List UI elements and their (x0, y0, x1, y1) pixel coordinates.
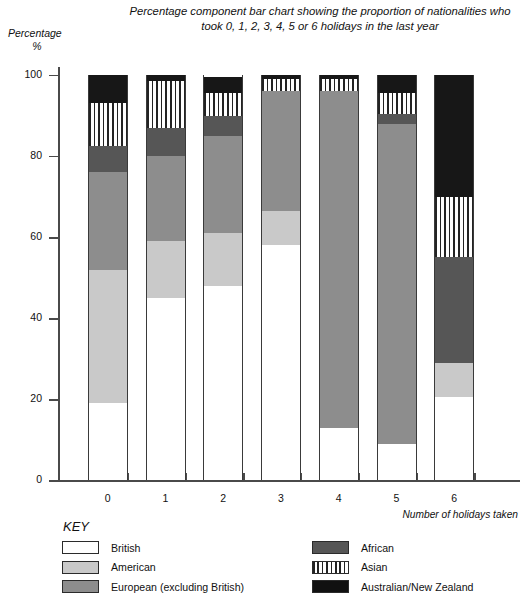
legend-label: Asian (361, 561, 388, 573)
bar-segment (320, 75, 358, 79)
key-heading: KEY (63, 519, 89, 534)
legend-item[interactable]: Australian/New Zealand (312, 577, 528, 597)
bar-0[interactable] (88, 75, 128, 480)
y-axis-tick (49, 75, 58, 76)
y-axis-tick-label: 60 (2, 230, 42, 242)
bar-1[interactable] (146, 75, 186, 480)
legend-label: Australian/New Zealand (361, 581, 473, 593)
bar-segment (320, 79, 358, 91)
bar-segment (89, 75, 127, 103)
y-axis-title: Percentage % (8, 27, 66, 53)
legend-item[interactable]: American (62, 558, 292, 578)
bar-segment (262, 79, 300, 91)
x-axis-tick (243, 473, 244, 482)
legend-label: European (excluding British) (111, 581, 244, 593)
y-axis-tick (49, 480, 58, 481)
legend-swatch (62, 541, 99, 554)
x-axis-tick (474, 473, 475, 482)
bar-segment (435, 257, 473, 362)
bar-segment (378, 124, 416, 444)
bar-segment (262, 211, 300, 245)
x-axis-title: Number of holidays taken (402, 509, 518, 520)
legend: BritishAmericanEuropean (excluding Briti… (62, 538, 522, 596)
bar-segment (89, 103, 127, 146)
y-axis-tick-label: 80 (2, 149, 42, 161)
x-axis-tick-label: 3 (261, 492, 301, 504)
bar-segment (262, 91, 300, 211)
x-axis-tick (301, 473, 302, 482)
bar-segment (262, 75, 300, 79)
bar-segment (378, 444, 416, 480)
bar-segment (89, 270, 127, 404)
bar-segment (147, 128, 185, 156)
bar-4[interactable] (319, 75, 359, 480)
legend-swatch (62, 561, 99, 574)
bar-segment (147, 156, 185, 241)
x-axis-tick (186, 473, 187, 482)
bar-segment (147, 81, 185, 128)
bar-segment (378, 75, 416, 93)
legend-item[interactable]: British (62, 538, 292, 558)
bar-segment (378, 93, 416, 113)
bar-segment (435, 75, 473, 197)
y-axis-tick-label: 0 (2, 473, 42, 485)
y-axis-tick (49, 399, 58, 400)
y-axis-tick (49, 237, 58, 238)
x-axis-tick (417, 473, 418, 482)
bar-segment (204, 286, 242, 481)
bar-6[interactable] (434, 75, 474, 480)
y-axis-title-line1: Percentage (8, 27, 62, 39)
x-axis-tick (128, 473, 129, 482)
y-axis-title-line2: % (8, 40, 66, 53)
x-axis-tick-label: 6 (434, 492, 474, 504)
bar-segment (435, 397, 473, 480)
bar-segment (204, 136, 242, 233)
legend-label: British (111, 542, 140, 554)
bar-segment (435, 197, 473, 258)
bar-segment (262, 245, 300, 480)
y-axis-tick (49, 156, 58, 157)
legend-swatch (312, 561, 349, 574)
bar-segment (147, 75, 185, 81)
bar-segment (89, 172, 127, 269)
bar-segment (147, 241, 185, 298)
x-axis-tick-label: 0 (88, 492, 128, 504)
legend-label: American (111, 561, 156, 573)
legend-label: African (361, 542, 394, 554)
bar-segment (204, 77, 242, 93)
bar-segment (89, 403, 127, 480)
plot-area: Number of holidays taken 020406080100012… (58, 75, 520, 482)
bar-segment (89, 146, 127, 172)
y-axis-tick-label: 40 (2, 311, 42, 323)
bar-segment (378, 114, 416, 124)
legend-item[interactable]: Asian (312, 558, 528, 578)
bar-segment (204, 116, 242, 136)
legend-column-left: BritishAmericanEuropean (excluding Briti… (62, 538, 292, 597)
legend-swatch (62, 580, 99, 593)
chart-title: Percentage component bar chart showing t… (120, 4, 520, 34)
x-axis-tick-label: 4 (319, 492, 359, 504)
bar-segment (320, 91, 358, 427)
legend-item[interactable]: African (312, 538, 528, 558)
y-axis-line (58, 67, 60, 482)
legend-item[interactable]: European (excluding British) (62, 577, 292, 597)
bar-5[interactable] (377, 75, 417, 480)
y-axis-tick (49, 318, 58, 319)
legend-column-right: AfricanAsianAustralian/New Zealand (312, 538, 528, 597)
bar-segment (204, 93, 242, 115)
bar-3[interactable] (261, 75, 301, 480)
bar-segment (320, 428, 358, 481)
y-axis-tick-label: 100 (2, 68, 42, 80)
x-axis-tick-label: 1 (146, 492, 186, 504)
percentage-component-bar-chart: Percentage component bar chart showing t… (0, 0, 528, 598)
x-axis-tick-label: 2 (203, 492, 243, 504)
legend-swatch (312, 541, 349, 554)
x-axis-tick (359, 473, 360, 482)
bar-segment (435, 363, 473, 397)
legend-swatch (312, 580, 349, 593)
bar-segment (204, 233, 242, 286)
x-axis-tick-label: 5 (377, 492, 417, 504)
bar-2[interactable] (203, 75, 243, 480)
y-axis-tick-label: 20 (2, 392, 42, 404)
bar-segment (147, 298, 185, 480)
